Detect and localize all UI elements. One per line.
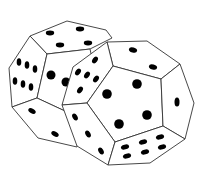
pip bbox=[76, 27, 84, 32]
pip bbox=[33, 65, 38, 73]
pip bbox=[56, 43, 64, 48]
pip bbox=[132, 79, 142, 89]
pip bbox=[17, 58, 22, 66]
pip bbox=[21, 80, 26, 88]
dice-illustration: Two dodecahedral dice bbox=[0, 0, 201, 176]
pip bbox=[142, 110, 152, 120]
pip bbox=[25, 61, 30, 69]
dice-drawing bbox=[0, 0, 201, 176]
pip bbox=[114, 119, 124, 129]
pip bbox=[13, 77, 18, 85]
pip bbox=[29, 83, 34, 91]
pip bbox=[84, 41, 92, 46]
pip bbox=[47, 71, 56, 80]
pip bbox=[102, 89, 112, 99]
pip bbox=[46, 31, 54, 36]
pip bbox=[175, 98, 180, 107]
